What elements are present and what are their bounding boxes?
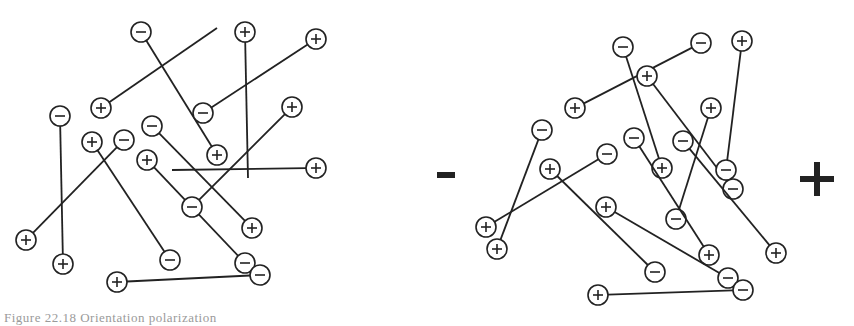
- dipole: [596, 197, 738, 288]
- positive-charge-icon: [235, 22, 255, 42]
- dipole: [540, 159, 665, 282]
- dipole: [50, 106, 73, 274]
- positive-charge-icon: [487, 239, 507, 259]
- negative-charge-icon: [723, 179, 743, 199]
- positive-charge-icon: [107, 272, 127, 292]
- dipole: [131, 22, 227, 165]
- negative-charge-icon: [142, 116, 162, 136]
- positive-charge-icon: [137, 150, 157, 170]
- polarized-panel: [476, 31, 786, 305]
- negative-charge-icon: [716, 160, 736, 180]
- dipole: [142, 116, 262, 238]
- negative-charge-icon: [666, 209, 686, 229]
- unpolarized-panel: [16, 22, 326, 292]
- negative-charge-icon: [250, 265, 270, 285]
- dipole: [476, 144, 617, 237]
- positive-charge-icon: [701, 98, 721, 118]
- dipole: [193, 29, 326, 123]
- negative-charge-icon: [182, 197, 202, 217]
- negative-charge-icon: [624, 128, 644, 148]
- dipole: [82, 132, 180, 270]
- positive-charge-icon: [82, 132, 102, 152]
- positive-electrode-sign: [800, 162, 834, 196]
- positive-charge-icon: [242, 218, 262, 238]
- positive-charge-icon: [53, 254, 73, 274]
- dipole: [16, 130, 134, 250]
- negative-charge-icon: [673, 131, 693, 151]
- positive-charge-icon: [282, 97, 302, 117]
- negative-charge-icon: [160, 250, 180, 270]
- dipole: [487, 120, 552, 259]
- positive-charge-icon: [306, 29, 326, 49]
- positive-charge-icon: [565, 98, 585, 118]
- positive-charge-icon: [652, 158, 672, 178]
- figure-caption: Figure 22.18 Orientation polarization: [4, 310, 217, 326]
- negative-charge-icon: [193, 103, 213, 123]
- positive-charge-icon: [588, 285, 608, 305]
- negative-charge-icon: [733, 280, 753, 300]
- negative-charge-icon: [532, 120, 552, 140]
- negative-electrode-sign: [437, 172, 455, 178]
- negative-charge-icon: [131, 22, 151, 42]
- negative-charge-icon: [691, 33, 711, 53]
- positive-charge-icon: [476, 217, 496, 237]
- positive-charge-icon: [91, 98, 111, 118]
- positive-charge-icon: [766, 243, 786, 263]
- negative-charge-icon: [50, 106, 70, 126]
- negative-charge-icon: [597, 144, 617, 164]
- negative-charge-icon: [645, 262, 665, 282]
- dipole: [613, 37, 672, 178]
- positive-charge-icon: [16, 230, 36, 250]
- negative-charge-icon: [114, 130, 134, 150]
- dipole: [673, 131, 786, 263]
- positive-charge-icon: [732, 31, 752, 51]
- positive-charge-icon: [596, 197, 616, 217]
- positive-charge-icon: [540, 159, 560, 179]
- positive-charge-icon: [637, 66, 657, 86]
- dipole: [172, 158, 326, 178]
- negative-charge-icon: [613, 37, 633, 57]
- positive-charge-icon: [306, 158, 326, 178]
- positive-charge-icon: [207, 145, 227, 165]
